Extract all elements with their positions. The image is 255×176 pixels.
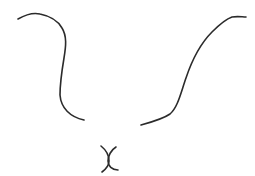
- sketch-canvas: [0, 0, 255, 176]
